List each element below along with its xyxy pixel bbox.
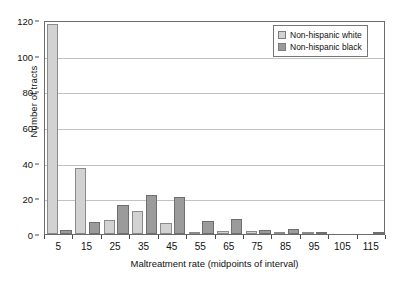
x-axis-tick-label: 85	[280, 241, 291, 252]
bar	[117, 205, 128, 234]
y-axis-tick-label: 100	[17, 51, 33, 62]
bar	[160, 223, 171, 234]
x-axis-tick-label: 45	[166, 241, 177, 252]
y-axis-tick-label: 0	[28, 230, 33, 241]
x-axis-tick-mark	[328, 235, 329, 239]
x-axis-tick-label: 15	[81, 241, 92, 252]
bar	[373, 232, 384, 234]
y-axis-tick-mark	[35, 235, 39, 236]
bar	[60, 230, 71, 234]
y-axis-tick-mark	[35, 163, 39, 164]
x-axis-tick-label: 55	[195, 241, 206, 252]
legend-label: Non-hispanic black	[290, 41, 362, 53]
x-axis-tick-mark	[158, 235, 159, 239]
bar	[89, 222, 100, 234]
y-axis-tick-label: 20	[22, 194, 33, 205]
x-axis-tick-mark	[271, 235, 272, 239]
bar	[302, 232, 313, 234]
y-axis-tick-labels: 020406080100120	[0, 0, 41, 285]
y-axis-tick-label: 120	[17, 16, 33, 27]
y-axis-tick-mark	[35, 56, 39, 57]
legend-item: Non-hispanic white	[278, 29, 362, 41]
x-axis-tick-mark	[129, 235, 130, 239]
bar	[231, 219, 242, 234]
bar	[259, 230, 270, 234]
chart-legend: Non-hispanic whiteNon-hispanic black	[273, 25, 368, 57]
x-axis-tick-label: 25	[109, 241, 120, 252]
bar	[146, 195, 157, 234]
y-axis-tick-mark	[35, 21, 39, 22]
legend-label: Non-hispanic white	[290, 29, 362, 41]
bar	[316, 232, 327, 234]
x-axis-tick-label: 115	[363, 241, 379, 252]
bar	[75, 168, 86, 234]
x-axis-tick-mark	[243, 235, 244, 239]
bar	[104, 220, 115, 234]
x-axis-tick-label: 95	[308, 241, 319, 252]
bar	[274, 232, 285, 234]
x-axis-title: Maltreatment rate (midpoints of interval…	[44, 258, 385, 269]
y-axis-tick-label: 60	[22, 123, 33, 134]
bar	[132, 211, 143, 234]
x-axis-tick-mark	[300, 235, 301, 239]
y-axis-tick-mark	[35, 199, 39, 200]
x-axis-tick-mark	[186, 235, 187, 239]
bar	[174, 197, 185, 234]
legend-swatch-icon	[278, 31, 286, 39]
legend-swatch-icon	[278, 43, 286, 51]
x-axis-tick-mark	[72, 235, 73, 239]
y-axis-tick-label: 40	[22, 158, 33, 169]
y-axis-tick-mark	[35, 128, 39, 129]
y-axis-tick-label: 80	[22, 87, 33, 98]
x-axis-tick-mark	[101, 235, 102, 239]
x-axis-tick-label: 105	[334, 241, 351, 252]
histogram-figure: Number of tracts 020406080100120 5152535…	[0, 0, 401, 285]
bar	[202, 221, 213, 234]
x-axis-tick-mark	[44, 235, 45, 239]
bar	[189, 232, 200, 234]
bar	[288, 229, 299, 234]
x-axis-tick-label: 5	[55, 241, 61, 252]
x-axis-tick-label: 65	[223, 241, 234, 252]
x-axis-tick-label: 35	[138, 241, 149, 252]
bar	[217, 231, 228, 234]
x-axis-tick-mark	[385, 235, 386, 239]
legend-item: Non-hispanic black	[278, 41, 362, 53]
x-axis-tick-label: 75	[252, 241, 263, 252]
x-axis-tick-mark	[215, 235, 216, 239]
bar	[47, 24, 58, 234]
y-axis-tick-mark	[35, 92, 39, 93]
bar	[246, 231, 257, 234]
x-axis-tick-mark	[357, 235, 358, 239]
